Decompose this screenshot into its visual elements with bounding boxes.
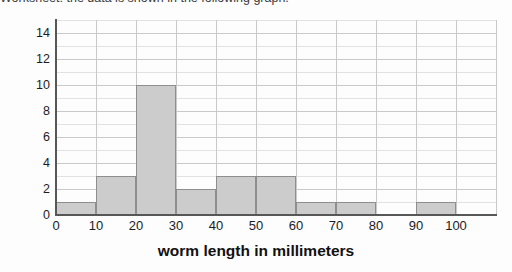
x-tick-label: 0: [52, 218, 59, 233]
gridline-horizontal: [56, 59, 496, 60]
x-axis-line: [55, 214, 497, 216]
x-tick-label: 20: [129, 218, 143, 233]
y-tick-label: 6: [26, 130, 50, 144]
x-tick-label: 30: [169, 218, 183, 233]
histogram-bar: [136, 85, 176, 215]
x-axis-tick-labels: 0102030405060708090100: [56, 218, 496, 236]
histogram-bar: [216, 176, 256, 215]
gridline-vertical: [376, 20, 377, 215]
histogram-bar: [96, 176, 136, 215]
y-tick-label: 0: [26, 208, 50, 222]
gridline-horizontal: [56, 137, 496, 138]
plot-area: [56, 20, 496, 215]
gridline-vertical: [296, 20, 297, 215]
x-axis-title: worm length in millimeters: [0, 242, 512, 260]
y-tick-label: 8: [26, 104, 50, 118]
gridline-horizontal: [56, 85, 496, 86]
x-tick-label: 100: [445, 218, 467, 233]
gridline-vertical: [496, 20, 497, 215]
gridline-horizontal: [56, 20, 496, 21]
histogram-chart: 02468101214 0102030405060708090100 worm …: [0, 0, 512, 272]
y-axis-line: [55, 19, 57, 216]
x-tick-label: 90: [409, 218, 423, 233]
gridline-horizontal: [56, 111, 496, 112]
gridline-horizontal: [56, 98, 496, 99]
x-tick-label: 50: [249, 218, 263, 233]
x-tick-label: 60: [289, 218, 303, 233]
x-tick-label: 70: [329, 218, 343, 233]
x-tick-label: 10: [89, 218, 103, 233]
gridline-horizontal: [56, 150, 496, 151]
histogram-bar: [176, 189, 216, 215]
gridline-horizontal: [56, 163, 496, 164]
gridline-horizontal: [56, 72, 496, 73]
gridline-vertical: [416, 20, 417, 215]
gridline-vertical: [176, 20, 177, 215]
x-tick-label: 40: [209, 218, 223, 233]
y-tick-label: 12: [26, 52, 50, 66]
y-tick-label: 14: [26, 26, 50, 40]
gridline-horizontal: [56, 33, 496, 34]
histogram-bar: [256, 176, 296, 215]
y-axis-tick-labels: 02468101214: [20, 20, 50, 215]
y-tick-label: 4: [26, 156, 50, 170]
gridline-horizontal: [56, 46, 496, 47]
gridline-vertical: [456, 20, 457, 215]
gridline-horizontal: [56, 124, 496, 125]
y-tick-label: 10: [26, 78, 50, 92]
x-tick-label: 80: [369, 218, 383, 233]
y-tick-label: 2: [26, 182, 50, 196]
gridline-vertical: [336, 20, 337, 215]
